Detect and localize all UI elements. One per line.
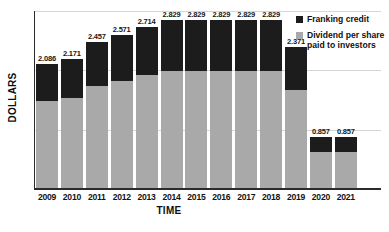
bar-value-label: 2.571 [113,25,131,34]
bar-value-label: 2.829 [212,10,230,19]
bar-value-label: 0.857 [312,127,330,136]
bar-segment-franking-credit[interactable] [260,20,282,70]
bar-value-label: 2.714 [138,17,156,26]
chart-legend: Franking credit Dividend per share paid … [296,14,388,56]
bar-group[interactable]: 0.857 [310,137,332,188]
bar-segment-franking-credit[interactable] [136,27,158,75]
bar-segment-franking-credit[interactable] [235,20,257,70]
bar-segment-dividend-per-share[interactable] [185,71,207,188]
legend-item-franking-credit: Franking credit [296,14,388,25]
x-tick-label: 2021 [331,192,361,202]
bar-group[interactable]: 2.829 [185,20,207,188]
bar-segment-franking-credit[interactable] [210,20,232,70]
y-axis-title: DOLLARS [7,53,18,143]
bar-segment-franking-credit[interactable] [111,35,133,81]
bar-value-label: 2.829 [188,10,206,19]
bar-group[interactable]: 2.829 [260,20,282,188]
legend-label-franking: Franking credit [307,14,369,25]
bar-group[interactable]: 2.714 [136,27,158,188]
bar-value-label: 2.086 [38,54,56,63]
bar-value-label: 2.829 [163,10,181,19]
bar-value-label: 2.829 [237,10,255,19]
bar-segment-dividend-per-share[interactable] [61,98,83,188]
bar-group[interactable]: 2.171 [61,59,83,188]
legend-label-dividend: Dividend per share paid to investors [307,30,388,51]
bar-value-label: 2.829 [262,10,280,19]
bar-segment-franking-credit[interactable] [310,137,332,152]
bar-segment-franking-credit[interactable] [61,59,83,98]
bar-group[interactable]: 2.829 [161,20,183,188]
bar-segment-dividend-per-share[interactable] [111,81,133,188]
bar-value-label: 0.857 [337,127,355,136]
bar-segment-franking-credit[interactable] [335,137,357,152]
bar-group[interactable]: 2.086 [36,64,58,188]
bar-segment-dividend-per-share[interactable] [310,152,332,188]
bar-group[interactable]: 2.829 [235,20,257,188]
bar-segment-dividend-per-share[interactable] [335,152,357,188]
bar-segment-dividend-per-share[interactable] [161,71,183,188]
bar-segment-franking-credit[interactable] [161,20,183,70]
bar-segment-dividend-per-share[interactable] [235,71,257,188]
bar-segment-dividend-per-share[interactable] [136,75,158,188]
bar-value-label: 2.171 [63,49,81,58]
bar-group[interactable]: 2.457 [86,42,108,188]
bar-group[interactable]: 0.857 [335,137,357,188]
bar-segment-franking-credit[interactable] [36,64,58,101]
bar-group[interactable]: 2.371 [285,47,307,188]
legend-item-dividend-per-share: Dividend per share paid to investors [296,30,388,51]
legend-swatch-icon-dividend [296,32,303,39]
bar-segment-dividend-per-share[interactable] [210,71,232,188]
bar-segment-franking-credit[interactable] [185,20,207,70]
legend-swatch-icon-franking [296,16,303,23]
bar-segment-franking-credit[interactable] [86,42,108,86]
bar-segment-dividend-per-share[interactable] [36,101,58,188]
bar-segment-dividend-per-share[interactable] [260,71,282,188]
bar-value-label: 2.457 [88,32,106,41]
bar-segment-dividend-per-share[interactable] [285,90,307,188]
bar-group[interactable]: 2.571 [111,35,133,188]
bar-segment-dividend-per-share[interactable] [86,86,108,188]
x-axis-title: TIME [34,205,304,216]
bar-group[interactable]: 2.829 [210,20,232,188]
stacked-bar-chart: 2.0862.1712.4572.5712.7142.8292.8292.829… [0,0,389,232]
